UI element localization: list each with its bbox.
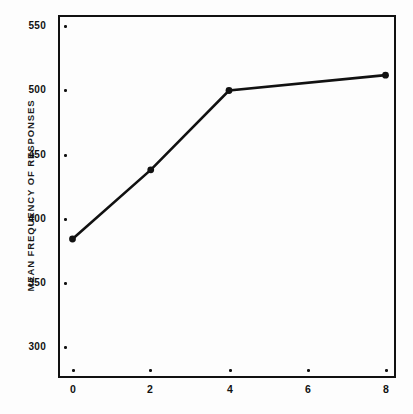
data-point-0 (69, 236, 76, 243)
data-point-markers (69, 72, 389, 243)
data-point-8 (382, 72, 389, 79)
data-point-4 (226, 87, 233, 94)
line-path (73, 75, 386, 239)
chart-figure: MEAN FREQUENCY OF RESPONSES 550 500 450 … (0, 0, 413, 414)
page-caption-fragment (0, 400, 413, 414)
data-series-line (0, 0, 413, 414)
data-point-2 (147, 166, 154, 173)
